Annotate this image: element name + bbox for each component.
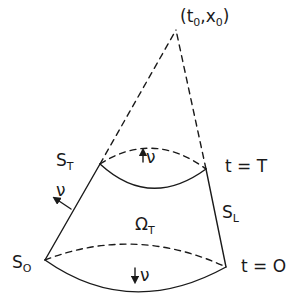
bottom-surface-label: SO [12,252,32,275]
normal-arrow-lateral-icon [56,199,71,209]
domain-label: ΩT [135,214,155,237]
lateral-surface-label: SL [222,202,240,225]
normal-label-lateral: ν [56,180,66,200]
top-surface-label: ST [56,150,74,173]
time-top-label: t = T [225,156,268,176]
normal-label-bottom: ν [140,265,150,285]
normal-label-top: ν [146,147,156,167]
cone-diagram: (t0,x0) ν ν ν ST t = T ΩT SL SO t = O [0,0,303,308]
apex-label: (t0,x0) [180,6,229,29]
time-bottom-label: t = O [241,256,286,276]
